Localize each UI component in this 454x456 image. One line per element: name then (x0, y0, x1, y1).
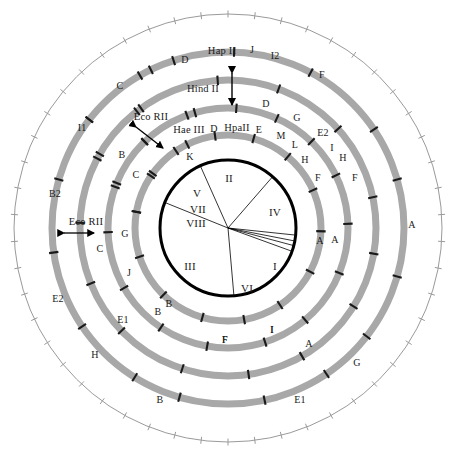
scale-tick (201, 437, 202, 444)
scale-tick (254, 437, 255, 444)
ring-hap-ii-fragment-label: C (117, 81, 124, 91)
scale-tick (44, 111, 50, 115)
ring-hpa-ii-fragment-label: M (276, 131, 285, 141)
scale-tick (406, 341, 412, 345)
scale-tick (435, 187, 442, 188)
scale-tick (352, 52, 356, 58)
ring-eco-rii-fragment-label: B (155, 307, 162, 317)
ring-hap-ii-fragment-label: E1 (294, 395, 306, 405)
scale-tick (406, 111, 412, 115)
circular-restriction-map: DJI2FAGE1BHE2B2I1CHap IIDGE2IHFAAIFBE1CB… (0, 0, 454, 456)
ring-eco-rii-cut-site (248, 370, 249, 379)
inner-sector-label: IV (269, 207, 281, 218)
inner-sector-label: V (193, 188, 201, 199)
ring-hpa-ii-fragment-label: C (133, 170, 140, 180)
ring-eco-rii-fragment-label: E2 (317, 128, 329, 138)
ring-hpa-ii-fragment-label: G (121, 229, 128, 239)
ring-hae-iii-fragment-label: B (166, 299, 173, 309)
scale-tick (123, 37, 126, 43)
scale-tick (329, 37, 332, 43)
ring-eco-rii-fragment-label: B (119, 150, 126, 160)
ring-hpa-ii-fragment-label: J (127, 268, 131, 278)
inner-sector-label: VII (190, 204, 206, 215)
ring-eco-rii-enzyme-label: Eco RII (134, 112, 168, 123)
scale-tick (329, 412, 332, 418)
scale-tick (14, 267, 21, 268)
ring-hae-iii-enzyme-label: Hae III (173, 125, 204, 136)
ring-hap-ii-fragment-label: E2 (52, 294, 64, 304)
inner-sector-label: VI (241, 283, 253, 294)
ring-hap-ii-fragment-label: H (91, 350, 98, 360)
ring-eco-rii-fragment-label: G (293, 113, 300, 123)
ring-hap-ii-fragment-label: A (408, 220, 415, 230)
hind-ii-label: Hind II (187, 84, 219, 95)
ring-hap-ii-fragment-label: G (353, 358, 360, 368)
ring-eco-rii-fragment-label: D (262, 99, 269, 109)
scale-tick (352, 398, 356, 404)
scale-tick (123, 412, 126, 418)
ring-hpa-ii-enzyme-label: HpaII (224, 123, 250, 134)
ring-hpa-ii-cut-site (236, 104, 237, 113)
ring-hpa-ii-fragment-label: K (186, 152, 193, 162)
ring-hap-ii-fragment-label: D (181, 55, 188, 65)
ring-hap-ii-fragment-label: B (157, 395, 164, 405)
ring-hpa-ii-fragment-label: L (292, 140, 298, 150)
ring-eco-rii-fragment-label: C (97, 244, 104, 254)
ring-eco-rii-enzyme-label-2: Eco RII (69, 217, 103, 228)
scale-tick (100, 52, 104, 58)
scale-tick (14, 187, 21, 188)
ring-hpa-ii-fragment-label: F (222, 335, 228, 345)
ring-hae-iii-fragment-label: D (210, 124, 217, 134)
ring-hap-ii-fragment-label: I1 (78, 123, 87, 133)
ring-eco-rii-fragment-label: E1 (117, 315, 129, 325)
ring-eco-rii-fragment-label: A (305, 339, 312, 349)
ring-hap-ii-fragment-label: B2 (49, 189, 61, 199)
ring-hpa-ii-fragment-label: A (316, 236, 323, 246)
ring-hap-ii-enzyme-label: Hap II (208, 46, 236, 57)
ring-hpa-ii-fragment-label: I (270, 325, 274, 335)
scale-tick (100, 398, 104, 404)
scale-tick (201, 12, 202, 19)
map-canvas (0, 0, 454, 456)
ring-hap-ii-cut-site (49, 252, 58, 253)
scale-tick (44, 341, 50, 345)
ring-hpa-ii-fragment-label: F (315, 173, 321, 183)
inner-sector-label: II (225, 173, 233, 184)
ring-hap-ii-fragment-label: F (319, 70, 325, 80)
ring-eco-rii-fragment-label: I (330, 143, 334, 153)
scale-tick (435, 267, 442, 268)
inner-sector-label: VIII (186, 218, 206, 229)
ring-eco-rii-fragment-label: A (331, 235, 338, 245)
ring-hap-ii-fragment-label: J (250, 45, 254, 55)
ring-hpa-ii-fragment-label: E (256, 125, 262, 135)
ring-hap-ii-fragment-label: I2 (271, 51, 280, 61)
ring-eco-rii-fragment-label: H (339, 153, 346, 163)
ring-hpa-ii-fragment-label: H (301, 155, 308, 165)
ring-eco-rii-fragment-label: F (352, 173, 358, 183)
inner-sector-label: I (273, 261, 277, 272)
inner-sector-label: III (184, 261, 196, 272)
scale-tick (254, 12, 255, 19)
